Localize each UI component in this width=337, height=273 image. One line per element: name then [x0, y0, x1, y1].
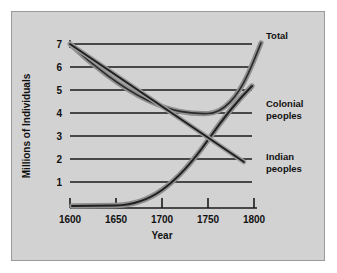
- population-line-chart: 7 6 5 4 3 2 1 1600 1650 1700 1750 1800 Y…: [12, 12, 324, 260]
- series-label-indian-line1: Indian: [266, 151, 294, 162]
- xtick-label-1650: 1650: [105, 214, 128, 225]
- series-indian-line: [70, 44, 244, 162]
- ytick-label-4: 4: [56, 108, 62, 119]
- x-tick-labels: 1600 1650 1700 1750 1800: [59, 214, 266, 225]
- xtick-label-1750: 1750: [197, 214, 220, 225]
- xtick-label-1700: 1700: [151, 214, 174, 225]
- series-label-total: Total: [266, 30, 288, 41]
- ytick-label-2: 2: [56, 154, 62, 165]
- series-total: [70, 43, 261, 114]
- series-indian-peoples: [70, 44, 244, 162]
- series-total-band: [70, 43, 261, 114]
- xtick-label-1800: 1800: [243, 214, 266, 225]
- ytick-label-7: 7: [56, 39, 62, 50]
- ytick-label-6: 6: [56, 62, 62, 73]
- y-axis-title: Millions of Individuals: [21, 73, 32, 178]
- ytick-label-5: 5: [56, 85, 62, 96]
- y-tick-labels: 7 6 5 4 3 2 1: [56, 39, 62, 188]
- ytick-label-3: 3: [56, 131, 62, 142]
- ytick-label-1: 1: [56, 177, 62, 188]
- series-label-indian-line2: peoples: [266, 163, 302, 174]
- figure-root: 7 6 5 4 3 2 1 1600 1650 1700 1750 1800 Y…: [0, 0, 337, 273]
- chart-panel: 7 6 5 4 3 2 1 1600 1650 1700 1750 1800 Y…: [11, 11, 325, 261]
- series-label-colonial-line1: Colonial: [266, 98, 303, 109]
- series-label-colonial-line2: peoples: [266, 110, 302, 121]
- x-axis-title: Year: [151, 230, 172, 241]
- xtick-label-1600: 1600: [59, 214, 82, 225]
